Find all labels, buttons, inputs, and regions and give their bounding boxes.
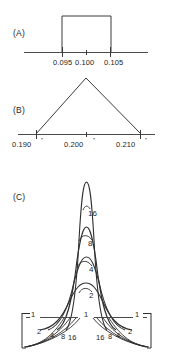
leader-right-8 [97,318,147,347]
panel-a-label: (A) [13,28,25,38]
panel-c-group [22,182,151,348]
panel-b-triangle [36,78,141,134]
figure-svg: (A) (B) (C) 0.095 0.100 0.105 0.190 ″ 0.… [0,0,170,359]
panel-b-inch-mark-high: ″ [145,137,147,143]
baseline-label-right-8: 8 [108,332,112,341]
baseline-label-right-16: 16 [96,333,104,342]
panel-a-group [24,16,148,57]
panel-b-axis-label-high-group: 0.210 ″ [116,137,147,149]
panel-c-label: (C) [13,192,25,202]
baseline-label-left-8: 8 [61,332,65,341]
panel-c-bracket-left [22,313,26,348]
curve-label-8: 8 [88,239,93,248]
baseline-label-left-1: 1 [31,310,35,319]
curve-label-16: 16 [88,209,97,218]
baseline-label-left-4: 4 [50,331,54,340]
baseline-label-center: 1 [84,310,88,319]
baseline-label-left-16: 16 [68,333,76,342]
panel-b-axis-label-mid: 0.200 [64,140,83,149]
panel-b-axis-label-low-group: 0.190 ″ [12,137,43,149]
panel-a-axis-label-high: 0.105 [104,58,123,67]
panel-a-axis-label-low: 0.095 [53,58,72,67]
panel-b-axis-label-high: 0.210 [116,140,135,149]
panel-b-axis-label-low: 0.190 [12,140,31,149]
panel-b-axis-label-mid-group: 0.200 ″ [64,137,95,149]
panel-b-inch-mark-low: ″ [41,137,43,143]
curve-n16 [66,182,107,330]
panel-b-group [18,78,155,139]
panel-b-inch-mark-mid: ″ [93,137,95,143]
baseline-label-right-1: 1 [135,310,139,319]
curve-n2 [40,283,132,330]
panel-a-rectangle [62,16,111,52]
panel-c-bracket-right [147,313,151,348]
panel-b-label: (B) [13,105,25,115]
curve-label-4: 4 [89,265,94,274]
curve-label-2: 2 [89,291,94,300]
baseline-label-left-2: 2 [37,327,41,336]
baseline-label-right-2: 2 [128,327,132,336]
panel-a-axis-label-mid: 0.100 [75,58,94,67]
baseline-label-right-4: 4 [116,331,120,340]
figure-container: (A) (B) (C) 0.095 0.100 0.105 0.190 ″ 0.… [0,0,170,359]
